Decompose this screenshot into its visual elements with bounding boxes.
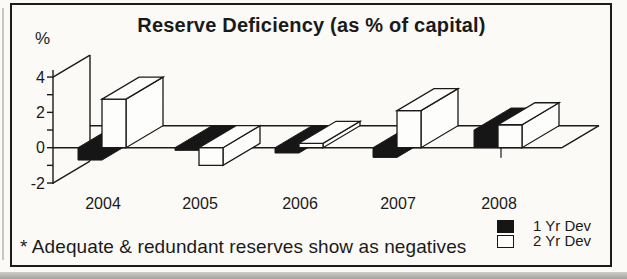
legend-swatch-2yr-dev-icon: [497, 235, 514, 248]
bar-2008-2yr-dev-front-face: [498, 125, 522, 148]
wall-bottom-edge: [53, 161, 90, 183]
chart-legend: 1 Yr Dev 2 Yr Dev: [497, 219, 591, 249]
bar-2004-2yr-dev-front-face: [102, 99, 126, 148]
legend-label-2yr-dev: 2 Yr Dev: [533, 234, 591, 248]
bar-2007-2yr-dev-front-face: [397, 111, 421, 148]
y-tick-label: -2: [31, 175, 45, 192]
floor-right-edge: [562, 126, 599, 148]
x-axis-label: 2004: [85, 195, 121, 212]
legend-item-2yr-dev: 2 Yr Dev: [497, 234, 591, 248]
bar-2005-2yr-dev-front-face: [199, 148, 223, 166]
legend-item-1yr-dev: 1 Yr Dev: [497, 219, 591, 233]
x-axis-label: 2005: [182, 195, 218, 212]
scanned-chart-page: Reserve Deficiency (as % of capital) % 4…: [0, 0, 627, 279]
bar-2006-2yr-dev-front-face: [299, 143, 323, 147]
x-axis-label: 2008: [481, 195, 517, 212]
y-tick-label: 4: [36, 69, 45, 86]
x-axis-label: 2007: [380, 195, 416, 212]
scan-edge-artifact: [2, 8, 4, 260]
wall-top-edge: [53, 55, 90, 77]
chart-footnote: * Adequate & redundant reserves show as …: [20, 236, 466, 258]
y-tick-label: 2: [36, 104, 45, 121]
x-axis-label: 2006: [282, 195, 318, 212]
y-tick-label: 0: [36, 139, 45, 156]
scan-edge-artifact: [0, 272, 627, 279]
legend-label-1yr-dev: 1 Yr Dev: [533, 219, 591, 233]
legend-swatch-1yr-dev-icon: [497, 220, 514, 233]
